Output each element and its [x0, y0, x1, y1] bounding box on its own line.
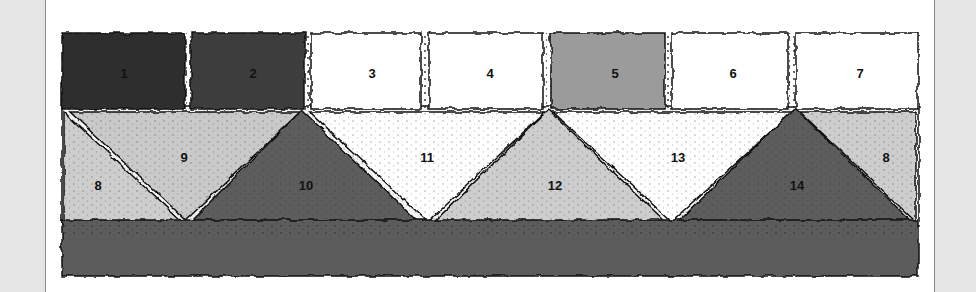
block-7-label: 7 [856, 66, 863, 81]
bottom-band-stipple [64, 222, 916, 236]
block-6-label: 6 [729, 66, 736, 81]
block-3-label: 3 [368, 66, 375, 81]
triangle-14-label: 14 [790, 178, 805, 193]
block-2 [191, 33, 305, 109]
block-3 [311, 33, 421, 109]
block-2-label: 2 [249, 66, 256, 81]
block-1-label: 1 [120, 66, 127, 81]
triangle-8-left-label: 8 [94, 178, 101, 193]
triangle-11-label: 11 [420, 150, 434, 165]
block-4-label: 4 [486, 66, 494, 81]
triangle-9-label: 9 [180, 150, 187, 165]
triangle-8-right-label: 8 [882, 150, 889, 165]
block-5-label: 5 [611, 66, 618, 81]
triangle-10-label: 10 [299, 178, 313, 193]
stipple-texture [62, 108, 919, 224]
triangle-13-label: 13 [671, 150, 685, 165]
triangle-12-label: 12 [548, 178, 562, 193]
block-5 [551, 33, 665, 109]
